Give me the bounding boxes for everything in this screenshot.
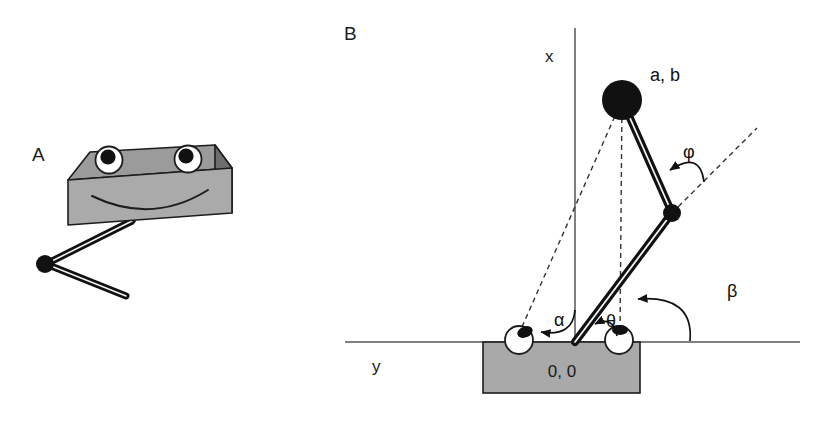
end-effector-label: a, b — [650, 65, 680, 85]
panel-a-right-eye-pupil — [178, 148, 193, 163]
figure-root: A — [0, 0, 816, 430]
x-axis-label: x — [545, 47, 554, 66]
panel-a: A — [32, 144, 232, 296]
panel-b-elbow-joint — [663, 204, 681, 222]
panel-b-left-eye — [505, 324, 534, 354]
panel-b: B x y 0, 0 — [344, 23, 800, 393]
angle-theta-label: θ — [606, 311, 616, 331]
panel-b-arm — [575, 80, 681, 342]
y-axis-label: y — [372, 357, 381, 376]
angle-phi-label: φ — [683, 142, 695, 162]
panel-a-upper-link-highlight — [46, 221, 132, 264]
panel-b-lower-link-highlight — [575, 213, 672, 342]
origin-label: 0, 0 — [548, 362, 576, 381]
angle-alpha-label: α — [554, 310, 564, 330]
panel-a-label: A — [32, 144, 45, 165]
right-eye-sight-line — [620, 100, 622, 334]
panel-a-elbow-joint — [36, 255, 54, 273]
elbow-extension-line — [672, 128, 757, 213]
angle-beta-label: β — [727, 281, 737, 301]
panel-a-arm — [36, 221, 132, 296]
figure-canvas: A — [0, 0, 816, 430]
panel-a-left-eye-pupil — [100, 149, 115, 164]
panel-a-lower-link-highlight — [46, 264, 126, 296]
angle-beta-arc — [638, 299, 690, 341]
panel-b-end-effector — [602, 80, 642, 120]
panel-b-label: B — [344, 23, 357, 44]
panel-a-right-eye — [175, 146, 202, 173]
panel-a-left-eye — [96, 147, 123, 174]
angle-phi-arc — [670, 162, 704, 182]
